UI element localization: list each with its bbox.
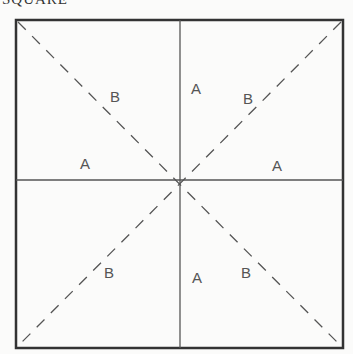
region-label: B (104, 264, 114, 281)
region-label: A (192, 269, 202, 286)
region-label: B (241, 264, 251, 281)
region-label: B (243, 90, 253, 107)
region-label: A (272, 157, 282, 174)
region-label: A (191, 80, 201, 97)
region-label: B (110, 88, 120, 105)
region-label: A (80, 155, 90, 172)
square-diagram: B A B A A B A B (0, 0, 353, 354)
